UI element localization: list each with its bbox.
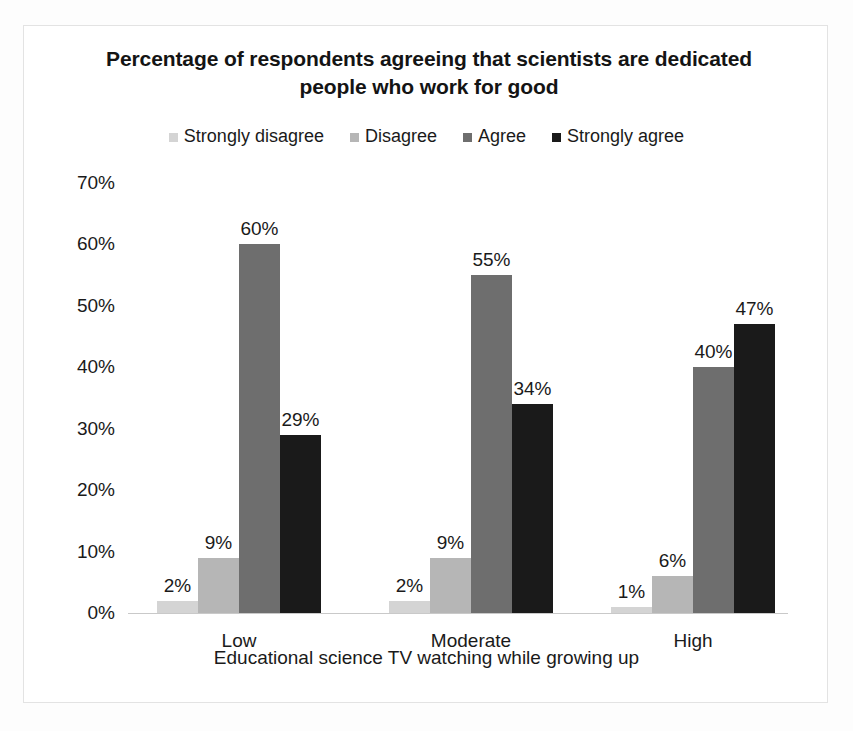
chart-frame: Percentage of respondents agreeing that … xyxy=(23,25,828,703)
bar-value-label: 29% xyxy=(281,409,319,431)
bar-rect xyxy=(430,558,471,613)
bar-rect xyxy=(693,367,734,613)
legend-label-strongly-agree: Strongly agree xyxy=(567,126,684,147)
legend-swatch-disagree xyxy=(350,133,359,142)
bar-rect xyxy=(389,601,430,613)
chart-title: Percentage of respondents agreeing that … xyxy=(84,45,774,100)
bar-value-label: 2% xyxy=(164,575,191,597)
y-axis-tick-10: 10% xyxy=(77,541,115,563)
bar-group-low: 2%9%60%29%Low xyxy=(157,183,321,613)
bar-high-strongly-agree[interactable]: 47% xyxy=(734,183,775,613)
bar-rect xyxy=(280,435,321,613)
bar-value-label: 40% xyxy=(694,341,732,363)
plot-area: 70%60%50%40%30%20%10%0% 2%9%60%29%Low2%9… xyxy=(128,183,788,613)
bar-value-label: 34% xyxy=(513,378,551,400)
legend-item-strongly-disagree[interactable]: Strongly disagree xyxy=(169,126,324,147)
x-axis-title: Educational science TV watching while gr… xyxy=(24,647,829,669)
bar-rect xyxy=(198,558,239,613)
y-axis-tick-70: 70% xyxy=(77,172,115,194)
y-axis-tick-20: 20% xyxy=(77,479,115,501)
bar-low-disagree[interactable]: 9% xyxy=(198,183,239,613)
y-axis-tick-30: 30% xyxy=(77,418,115,440)
legend-label-disagree: Disagree xyxy=(365,126,437,147)
legend-label-strongly-disagree: Strongly disagree xyxy=(184,126,324,147)
bar-value-label: 1% xyxy=(618,581,645,603)
bar-rect xyxy=(239,244,280,613)
bar-rect xyxy=(512,404,553,613)
bar-value-label: 2% xyxy=(396,575,423,597)
legend-swatch-strongly-disagree xyxy=(169,133,178,142)
bar-value-label: 9% xyxy=(437,532,464,554)
legend-swatch-agree xyxy=(463,133,472,142)
bar-group-high: 1%6%40%47%High xyxy=(611,183,775,613)
bar-value-label: 47% xyxy=(735,298,773,320)
legend-label-agree: Agree xyxy=(478,126,526,147)
bar-low-strongly-disagree[interactable]: 2% xyxy=(157,183,198,613)
bar-rect xyxy=(157,601,198,613)
x-axis-line xyxy=(128,613,788,614)
bar-value-label: 6% xyxy=(659,550,686,572)
bar-moderate-disagree[interactable]: 9% xyxy=(430,183,471,613)
bar-high-strongly-disagree[interactable]: 1% xyxy=(611,183,652,613)
legend-item-strongly-agree[interactable]: Strongly agree xyxy=(552,126,684,147)
y-axis-tick-50: 50% xyxy=(77,295,115,317)
bar-group-moderate: 2%9%55%34%Moderate xyxy=(389,183,553,613)
scanned-page-background: Percentage of respondents agreeing that … xyxy=(0,0,853,731)
bar-value-label: 60% xyxy=(240,218,278,240)
bar-moderate-agree[interactable]: 55% xyxy=(471,183,512,613)
legend-item-agree[interactable]: Agree xyxy=(463,126,526,147)
bar-low-agree[interactable]: 60% xyxy=(239,183,280,613)
y-axis-tick-0: 0% xyxy=(88,602,115,624)
bar-high-agree[interactable]: 40% xyxy=(693,183,734,613)
bar-low-strongly-agree[interactable]: 29% xyxy=(280,183,321,613)
legend-item-disagree[interactable]: Disagree xyxy=(350,126,437,147)
bar-moderate-strongly-disagree[interactable]: 2% xyxy=(389,183,430,613)
bar-value-label: 9% xyxy=(205,532,232,554)
bar-rect xyxy=(611,607,652,613)
bar-rect xyxy=(471,275,512,613)
y-axis-tick-60: 60% xyxy=(77,233,115,255)
legend-swatch-strongly-agree xyxy=(552,133,561,142)
bar-moderate-strongly-agree[interactable]: 34% xyxy=(512,183,553,613)
chart-legend: Strongly disagree Disagree Agree Strongl… xyxy=(24,126,829,147)
bar-rect xyxy=(652,576,693,613)
y-axis-tick-40: 40% xyxy=(77,356,115,378)
bar-high-disagree[interactable]: 6% xyxy=(652,183,693,613)
bar-rect xyxy=(734,324,775,613)
bar-value-label: 55% xyxy=(472,249,510,271)
